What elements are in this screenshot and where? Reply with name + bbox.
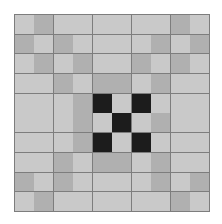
quilt-cell-r8-c4 (93, 173, 112, 192)
quilt-cell-r4-c8 (171, 94, 190, 113)
quilt-cell-r2-c9 (190, 54, 209, 73)
quilt-cell-r9-c7 (151, 192, 170, 211)
quilt-cell-r2-c8 (171, 54, 190, 73)
quilt-cell-r2-c5 (112, 54, 131, 73)
quilt-cell-r6-c1 (34, 133, 53, 152)
quilt-cell-r8-c6 (132, 173, 151, 192)
quilt-cell-r1-c0 (15, 35, 34, 54)
quilt-cell-r8-c5 (112, 173, 131, 192)
quilt-cell-r6-c0 (15, 133, 34, 152)
quilt-cell-r9-c5 (112, 192, 131, 211)
quilt-cell-r4-c1 (34, 94, 53, 113)
quilt-cell-r5-c5 (112, 113, 131, 132)
quilt-cell-r0-c2 (54, 15, 73, 34)
quilt-cell-r8-c9 (190, 173, 209, 192)
quilt-cell-r8-c1 (34, 173, 53, 192)
quilt-cell-r2-c3 (73, 54, 92, 73)
quilt-cell-r1-c4 (93, 35, 112, 54)
quilt-cell-r1-c7 (151, 35, 170, 54)
quilt-cell-r2-c4 (93, 54, 112, 73)
quilt-cell-r6-c8 (171, 133, 190, 152)
quilt-cell-r9-c8 (171, 192, 190, 211)
quilt-cell-r4-c4 (93, 94, 112, 113)
quilt-cell-r4-c5 (112, 94, 131, 113)
quilt-cell-r8-c8 (171, 173, 190, 192)
quilt-cell-r9-c6 (132, 192, 151, 211)
quilt-cell-r9-c3 (73, 192, 92, 211)
quilt-cell-r7-c2 (54, 153, 73, 172)
quilt-cell-r6-c6 (132, 133, 151, 152)
quilt-cell-r5-c7 (151, 113, 170, 132)
quilt-cell-r9-c4 (93, 192, 112, 211)
quilt-cell-r3-c0 (15, 74, 34, 93)
quilt-cell-r3-c9 (190, 74, 209, 93)
quilt-cell-r7-c9 (190, 153, 209, 172)
quilt-cell-r2-c0 (15, 54, 34, 73)
quilt-cell-r1-c2 (54, 35, 73, 54)
quilt-cell-r7-c8 (171, 153, 190, 172)
quilt-cell-r0-c0 (15, 15, 34, 34)
quilt-cell-r2-c7 (151, 54, 170, 73)
quilt-cell-r2-c1 (34, 54, 53, 73)
quilt-cell-r6-c9 (190, 133, 209, 152)
quilt-cell-r0-c5 (112, 15, 131, 34)
quilt-cell-r6-c7 (151, 133, 170, 152)
image-canvas (0, 0, 222, 224)
quilt-cell-r3-c5 (112, 74, 131, 93)
quilt-cell-r3-c8 (171, 74, 190, 93)
quilt-cell-r6-c5 (112, 133, 131, 152)
quilt-cell-r9-c1 (34, 192, 53, 211)
quilt-cell-r3-c2 (54, 74, 73, 93)
quilt-cell-r7-c7 (151, 153, 170, 172)
quilt-cell-r0-c1 (34, 15, 53, 34)
quilt-cell-r7-c6 (132, 153, 151, 172)
quilt-cell-r0-c6 (132, 15, 151, 34)
quilt-cell-r0-c4 (93, 15, 112, 34)
quilt-cell-r3-c1 (34, 74, 53, 93)
quilt-cell-r6-c4 (93, 133, 112, 152)
quilt-cell-r5-c4 (93, 113, 112, 132)
quilt-cell-r8-c3 (73, 173, 92, 192)
quilt-cell-r4-c7 (151, 94, 170, 113)
quilt-cell-r5-c6 (132, 113, 151, 132)
quilt-cell-r6-c3 (73, 133, 92, 152)
quilt-cell-r9-c9 (190, 192, 209, 211)
quilt-cell-r1-c8 (171, 35, 190, 54)
quilt-block-grid (14, 14, 210, 212)
quilt-cell-r3-c6 (132, 74, 151, 93)
quilt-cell-r4-c6 (132, 94, 151, 113)
quilt-cell-r9-c2 (54, 192, 73, 211)
quilt-cell-r4-c0 (15, 94, 34, 113)
quilt-cell-r5-c8 (171, 113, 190, 132)
quilt-cell-r1-c6 (132, 35, 151, 54)
quilt-cell-r7-c5 (112, 153, 131, 172)
quilt-cell-r5-c0 (15, 113, 34, 132)
quilt-cell-r3-c7 (151, 74, 170, 93)
quilt-cell-r0-c7 (151, 15, 170, 34)
quilt-cell-r7-c0 (15, 153, 34, 172)
quilt-cell-r4-c9 (190, 94, 209, 113)
quilt-cell-r5-c9 (190, 113, 209, 132)
quilt-cell-r2-c6 (132, 54, 151, 73)
quilt-cell-r8-c2 (54, 173, 73, 192)
quilt-cell-r4-c3 (73, 94, 92, 113)
quilt-cell-r2-c2 (54, 54, 73, 73)
quilt-cell-r3-c4 (93, 74, 112, 93)
quilt-cell-r7-c4 (93, 153, 112, 172)
quilt-cell-r5-c3 (73, 113, 92, 132)
quilt-cell-r5-c2 (54, 113, 73, 132)
quilt-cell-r3-c3 (73, 74, 92, 93)
quilt-cell-r8-c0 (15, 173, 34, 192)
quilt-cell-r1-c3 (73, 35, 92, 54)
quilt-cell-r5-c1 (34, 113, 53, 132)
quilt-cell-r0-c3 (73, 15, 92, 34)
quilt-cell-r1-c5 (112, 35, 131, 54)
quilt-cell-r7-c1 (34, 153, 53, 172)
quilt-cell-r6-c2 (54, 133, 73, 152)
quilt-cell-r7-c3 (73, 153, 92, 172)
quilt-cell-r4-c2 (54, 94, 73, 113)
quilt-cell-r1-c9 (190, 35, 209, 54)
quilt-cell-r1-c1 (34, 35, 53, 54)
quilt-cell-r0-c9 (190, 15, 209, 34)
quilt-cell-r8-c7 (151, 173, 170, 192)
